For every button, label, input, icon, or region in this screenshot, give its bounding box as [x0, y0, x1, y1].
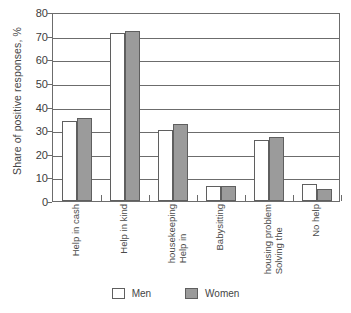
y-tick-label: 60 [8, 54, 52, 66]
bar-men [110, 33, 125, 201]
x-tick-mark [197, 195, 198, 201]
legend-label: Women [205, 288, 239, 299]
y-tick-label: 80 [8, 7, 52, 19]
bar-men [158, 130, 173, 201]
x-tick-mark [149, 195, 150, 201]
bar-women [77, 118, 92, 201]
y-tick-label: 20 [8, 149, 52, 161]
y-tick-label: 40 [8, 102, 52, 114]
y-tick-mark [47, 202, 52, 203]
legend-swatch-women [185, 288, 198, 299]
bar-women [269, 137, 284, 201]
bar-men [254, 140, 269, 201]
bar-women [125, 31, 140, 201]
gridline [53, 38, 339, 39]
legend-item: Women [185, 288, 239, 299]
legend-label: Men [132, 288, 151, 299]
y-tick-label: 50 [8, 78, 52, 90]
y-tick-marks: 01020304050607080 [0, 0, 52, 313]
x-tick-mark [101, 195, 102, 201]
gridline [53, 132, 339, 133]
bar-women [173, 124, 188, 201]
y-tick-label: 0 [8, 196, 52, 208]
plot-area [52, 13, 340, 202]
gridline [53, 61, 339, 62]
x-axis-label-line: Help in cash [70, 204, 81, 256]
legend: MenWomen [0, 288, 351, 299]
bar-women [221, 186, 236, 201]
bar-men [302, 184, 317, 201]
bar-men [62, 121, 77, 201]
bar-women [317, 189, 332, 201]
legend-item: Men [112, 288, 151, 299]
y-tick-label: 10 [8, 172, 52, 184]
gridline [53, 156, 339, 157]
x-axis-label-line: Babysitting [214, 204, 225, 250]
gridline [53, 85, 339, 86]
x-axis-label-line: housekeeping [166, 204, 177, 263]
x-tick-mark [245, 195, 246, 201]
x-axis-label-line: Solving the [273, 227, 284, 274]
y-tick-label: 30 [8, 125, 52, 137]
x-axis-label-line: Help in [177, 234, 188, 264]
y-tick-label: 70 [8, 31, 52, 43]
x-axis-label-line: Help in kind [118, 204, 129, 254]
x-axis-labels: Help in cashHelp in kindHelp inhousekeep… [52, 204, 340, 282]
x-axis-label-line: No help [310, 204, 321, 237]
gridline [53, 179, 339, 180]
x-tick-mark [293, 195, 294, 201]
x-axis-label-line: housing problem [262, 204, 273, 274]
x-tick-mark [341, 195, 342, 201]
x-axis-label: No help [310, 204, 351, 282]
bar-men [206, 186, 221, 201]
bar-chart: Share of positive responses, % 010203040… [0, 0, 351, 313]
gridline [53, 109, 339, 110]
legend-swatch-men [112, 288, 125, 299]
